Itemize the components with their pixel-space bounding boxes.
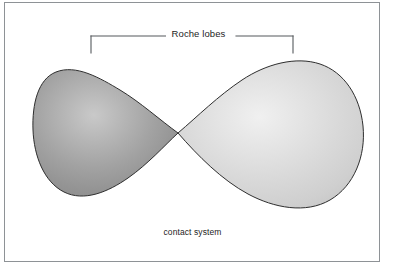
primary-roche-lobe [33,70,178,196]
roche-lobes-label-text: Roche lobes [166,28,232,39]
figure-caption: contact system [0,227,385,238]
secondary-roche-lobe [178,61,363,208]
roche-lobe-figure: Roche lobes contact system [0,0,397,272]
scan-edge-right [381,0,397,272]
scan-edge-bottom [0,263,397,272]
roche-lobes-label: Roche lobes [0,28,397,40]
